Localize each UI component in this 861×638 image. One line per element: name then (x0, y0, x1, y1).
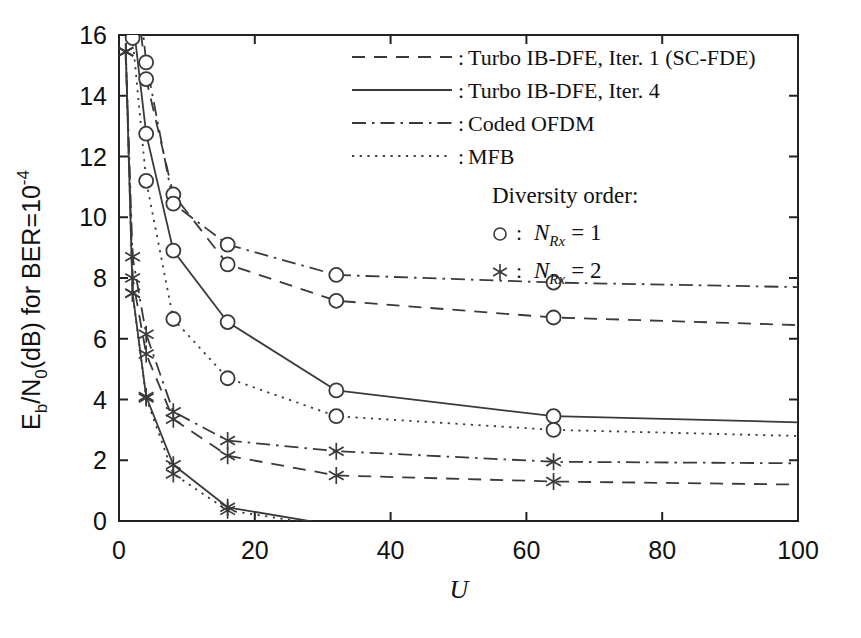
legend-circle-marker (494, 228, 506, 240)
legend-label: Coded OFDM (468, 111, 595, 136)
y-label-sub-0: 0 (32, 369, 51, 378)
data-point-circle (329, 409, 343, 423)
y-label-sub-b: b (32, 404, 51, 413)
data-point-circle (221, 238, 235, 252)
data-point-circle (139, 72, 153, 86)
data-point-circle (139, 174, 153, 188)
legend-separator: : (458, 45, 464, 70)
data-point-circle (547, 310, 561, 324)
chart-figure: 0204060801000246810121416 U Eb/N0(dB) fo… (0, 0, 861, 638)
legend-label: MFB (468, 144, 514, 169)
data-point-circle (547, 409, 561, 423)
x-tick-label: 60 (512, 536, 540, 564)
diversity-order-header: Diversity order: (492, 183, 638, 208)
y-tick-label: 16 (79, 21, 107, 49)
y-tick-label: 0 (93, 507, 107, 535)
data-point-circle (221, 315, 235, 329)
legend-separator: : (458, 78, 464, 103)
data-point-circle (547, 423, 561, 437)
data-point-circle (221, 371, 235, 385)
figure-background (0, 0, 861, 638)
y-tick-label: 6 (93, 325, 107, 353)
y-tick-label: 14 (79, 82, 107, 110)
x-axis-title: U (450, 575, 471, 604)
data-point-circle (139, 55, 153, 69)
legend-label: Turbo IB-DFE, Iter. 1 (SC-FDE) (468, 45, 756, 70)
data-point-circle (139, 127, 153, 141)
legend-separator: : (458, 144, 464, 169)
x-tick-label: 0 (112, 536, 126, 564)
data-point-circle (329, 383, 343, 397)
n-subscript: Rx (548, 233, 565, 249)
data-point-circle (166, 197, 180, 211)
y-tick-label: 2 (93, 446, 107, 474)
y-tick-label: 10 (79, 203, 107, 231)
n-symbol: N (533, 258, 551, 283)
data-point-circle (221, 257, 235, 271)
y-tick-label: 4 (93, 386, 107, 414)
y-label-part-n: /N (17, 379, 45, 404)
x-tick-label: 20 (241, 536, 269, 564)
data-point-circle (166, 244, 180, 258)
n-subscript: Rx (548, 271, 565, 287)
legend-diversity-separator: : (516, 220, 522, 245)
data-point-circle (329, 268, 343, 282)
y-label-part-ber: (dB) for BER=10 (17, 185, 45, 369)
y-label-exponent: -4 (14, 170, 33, 185)
line-chart-canvas: 0204060801000246810121416 U Eb/N0(dB) fo… (0, 0, 861, 638)
n-symbol: N (533, 220, 551, 245)
x-tick-label: 40 (377, 536, 405, 564)
data-point-circle (166, 312, 180, 326)
x-tick-label: 80 (648, 536, 676, 564)
y-label-part-eb: E (17, 413, 45, 430)
n-value: = 2 (571, 258, 601, 283)
legend-diversity-separator: : (516, 258, 522, 283)
legend-separator: : (458, 111, 464, 136)
legend-label: Turbo IB-DFE, Iter. 4 (468, 78, 660, 103)
x-tick-label: 100 (777, 536, 819, 564)
n-value: = 1 (571, 220, 601, 245)
y-tick-label: 12 (79, 143, 107, 171)
data-point-circle (329, 294, 343, 308)
y-tick-label: 8 (93, 264, 107, 292)
